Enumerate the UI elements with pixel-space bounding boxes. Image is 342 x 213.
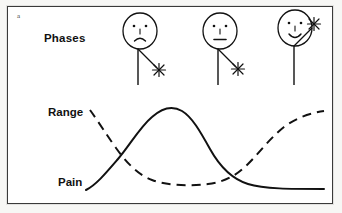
label-pain: Pain bbox=[58, 177, 82, 189]
stick-figure-neutral bbox=[203, 13, 245, 85]
starburst-icon bbox=[308, 18, 321, 31]
curve-pain bbox=[86, 108, 324, 190]
starburst-icon bbox=[232, 63, 245, 76]
label-range: Range bbox=[48, 107, 83, 119]
starburst-icon bbox=[153, 64, 166, 77]
figure-panel: a bbox=[0, 0, 342, 213]
label-phases: Phases bbox=[44, 33, 85, 45]
stick-figure-sad bbox=[123, 13, 166, 85]
stick-figure-happy bbox=[278, 10, 321, 85]
curve-range bbox=[90, 110, 324, 185]
